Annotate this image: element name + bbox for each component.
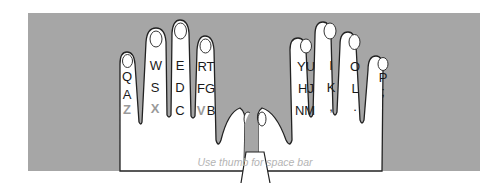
right-pinky-row2: ; (381, 84, 385, 99)
left-index-nail (200, 39, 211, 53)
typing-diagram: Q A Z W S X E D C RT FG V B YU HJ NM I K… (0, 0, 502, 183)
right-middle-nail (324, 23, 336, 39)
right-ring-nail (349, 35, 360, 50)
right-index-row2: HJ (298, 81, 314, 96)
right-middle-row1: I (329, 58, 333, 73)
space-bar-caption: Use thumb for space bar (198, 156, 313, 168)
right-ring-row1: O (350, 59, 360, 74)
left-ring-row1: W (150, 58, 163, 73)
right-middle-row3: , (329, 99, 333, 114)
left-pinky-row1: Q (122, 69, 132, 84)
right-thumb-nail (258, 112, 266, 126)
left-pinky-row3: Z (123, 102, 131, 117)
left-middle-row3: C (175, 103, 184, 118)
left-middle-row2: D (175, 80, 184, 95)
left-middle-row1: E (176, 58, 185, 73)
left-ring-row3: X (151, 101, 160, 116)
left-index-row3-v: V (197, 103, 206, 118)
left-ring-nail (150, 31, 162, 47)
left-ring-row2: S (151, 80, 160, 95)
right-index-nail (301, 39, 312, 53)
left-index-row1: RT (197, 59, 214, 74)
right-pinky-row1: P (379, 70, 388, 85)
left-pinky-row2: A (123, 87, 132, 102)
right-pinky-nail (378, 58, 388, 71)
left-index-row3-b: B (207, 103, 216, 118)
right-index-row3: NM (295, 103, 315, 118)
left-middle-nail (175, 23, 187, 39)
right-middle-row2: K (327, 80, 336, 95)
right-ring-row2: L (351, 81, 358, 96)
right-index-row1: YU (297, 59, 315, 74)
left-pinky-nail (123, 55, 133, 68)
left-index-row2: FG (197, 81, 215, 96)
right-ring-row3: . (353, 99, 357, 114)
